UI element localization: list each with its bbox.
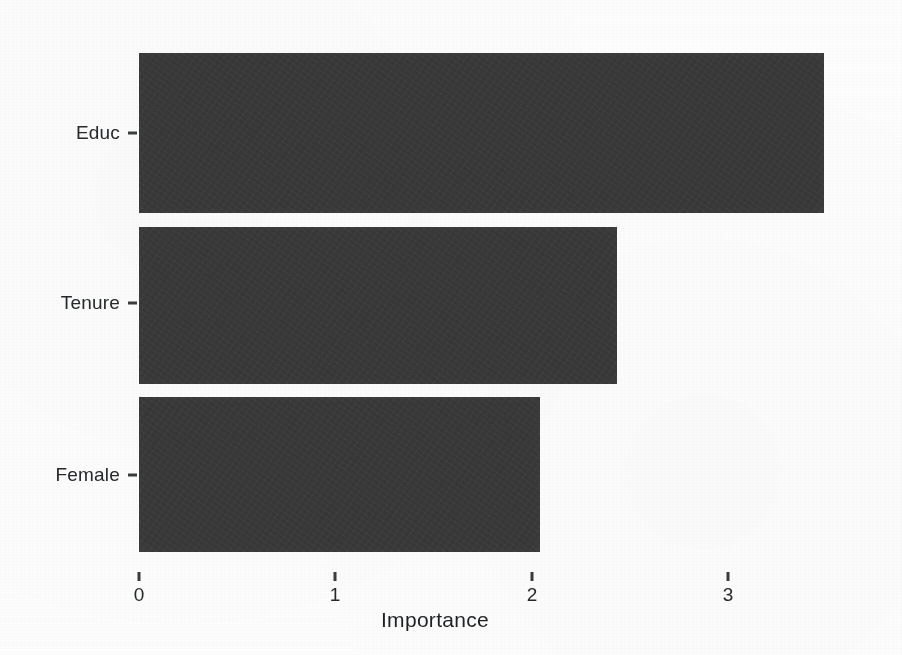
x-tick-mark-1 bbox=[334, 572, 337, 581]
x-tick-label-2: 2 bbox=[527, 584, 538, 606]
y-tick-label-tenure: Tenure bbox=[61, 292, 120, 314]
x-tick-mark-3 bbox=[727, 572, 730, 581]
x-tick-label-0: 0 bbox=[134, 584, 145, 606]
bar-row-tenure bbox=[139, 227, 859, 384]
y-tick-mark-female bbox=[128, 474, 137, 477]
x-axis-title: Importance bbox=[381, 608, 489, 632]
y-axis: Educ Tenure Female bbox=[0, 0, 120, 655]
bar-chart-figure: Educ Tenure Female 0 1 2 3 Importance bbox=[0, 0, 902, 655]
x-tick-mark-2 bbox=[531, 572, 534, 581]
x-tick-mark-0 bbox=[138, 572, 141, 581]
x-tick-label-3: 3 bbox=[723, 584, 734, 606]
x-axis-title-wrapper: Importance bbox=[0, 608, 902, 632]
bar-tenure[interactable] bbox=[139, 227, 617, 384]
x-tick-label-1: 1 bbox=[330, 584, 341, 606]
bar-female[interactable] bbox=[139, 397, 540, 552]
y-tick-mark-tenure bbox=[128, 302, 137, 305]
bar-educ[interactable] bbox=[139, 53, 824, 213]
bar-row-educ bbox=[139, 53, 859, 213]
y-tick-label-female: Female bbox=[55, 464, 120, 486]
plot-area bbox=[139, 40, 859, 565]
bar-row-female bbox=[139, 397, 859, 552]
y-tick-label-educ: Educ bbox=[76, 122, 120, 144]
y-tick-mark-educ bbox=[128, 132, 137, 135]
